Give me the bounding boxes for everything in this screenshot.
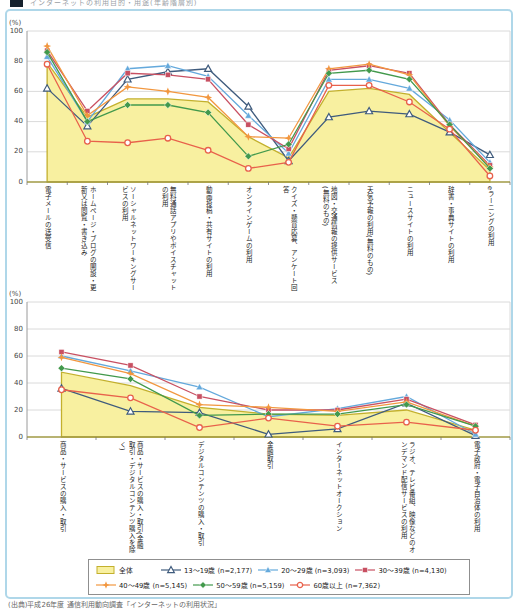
legend-label: 20〜29歳 (n=3,093) bbox=[281, 565, 349, 575]
y-tick-label: 60 bbox=[3, 87, 23, 95]
x-category-label: クイズ・懸賞応募、アンケート回答 bbox=[281, 186, 297, 292]
data-marker-circle-open bbox=[286, 160, 292, 166]
legend-label: 40〜49歳 (n=5,145) bbox=[119, 580, 187, 590]
data-marker-circle-open bbox=[59, 387, 65, 393]
x-category-label: 商品・サービスの購入・取引 bbox=[57, 441, 65, 554]
data-marker-circle-open bbox=[473, 427, 479, 433]
data-marker-square bbox=[206, 77, 211, 82]
data-marker-circle-open bbox=[298, 582, 303, 587]
y-tick-label: 80 bbox=[3, 57, 23, 65]
x-category-label: 地図・交通情報の提供サービス(無料のもの) bbox=[321, 186, 337, 292]
x-category-label: 電子メールの送受信 bbox=[43, 186, 51, 292]
data-marker-diamond bbox=[200, 581, 207, 588]
x-category-label: インターネットオークション bbox=[333, 441, 341, 554]
x-category-label: 天気予報の利用(無料のもの) bbox=[365, 186, 373, 292]
series-area-overall bbox=[47, 63, 490, 182]
data-marker-star bbox=[124, 83, 132, 91]
legend-item: 50〜59歳 (n=5,159) bbox=[193, 580, 284, 590]
y-tick-label: 20 bbox=[3, 147, 23, 155]
x-category-label: ニュースサイトの利用 bbox=[405, 186, 413, 292]
legend-label: 30〜39歳 (n=4,130) bbox=[378, 565, 446, 575]
data-marker-triangle-open bbox=[168, 566, 175, 572]
legend-item: 30〜39歳 (n=4,130) bbox=[355, 565, 446, 575]
data-marker-circle-open bbox=[197, 425, 203, 431]
legend: 全体13〜19歳 (n=2,177)20〜29歳 (n=3,093)30〜39歳… bbox=[88, 559, 470, 595]
legend-marker-circle-open bbox=[290, 580, 310, 590]
legend-item: 全体 bbox=[96, 565, 133, 575]
data-marker-circle-open bbox=[487, 173, 493, 179]
legend-marker-diamond-filled bbox=[193, 580, 213, 590]
data-marker-circle-open bbox=[335, 423, 341, 429]
x-category-label: eラーニングの利用 bbox=[486, 186, 494, 292]
legend-item: 13〜19歳 (n=2,177) bbox=[161, 565, 252, 575]
x-category-label: ラジオ、テレビ番組、映像などのオンデマンド配信サービスの利用 bbox=[398, 441, 414, 554]
data-marker-circle-open bbox=[125, 140, 131, 146]
y-tick-label: 0 bbox=[3, 178, 23, 186]
data-marker-star bbox=[102, 581, 110, 589]
x-category-label: オンラインゲームの利用 bbox=[244, 186, 252, 292]
y-tick-label: 40 bbox=[3, 117, 23, 125]
x-category-label: 辞書・事典サイトの利用 bbox=[446, 186, 454, 292]
legend-row-2: 40〜49歳 (n=5,145)50〜59歳 (n=5,159)60歳以上 (n… bbox=[96, 577, 464, 592]
data-marker-circle-open bbox=[246, 166, 252, 172]
data-marker-diamond bbox=[58, 365, 65, 372]
data-marker-circle-open bbox=[44, 61, 50, 67]
data-marker-square bbox=[125, 71, 130, 76]
legend-marker-triangle-filled bbox=[258, 565, 278, 575]
data-marker-circle-open bbox=[205, 147, 211, 153]
legend-marker-star4 bbox=[96, 580, 116, 590]
data-marker-circle-open bbox=[326, 83, 332, 89]
data-marker-square bbox=[246, 122, 251, 127]
legend-label: 全体 bbox=[119, 565, 133, 575]
data-marker-circle-open bbox=[404, 419, 410, 425]
data-marker-diamond bbox=[127, 375, 134, 382]
legend-row-1: 全体13〜19歳 (n=2,177)20〜29歳 (n=3,093)30〜39歳… bbox=[96, 562, 464, 577]
data-marker-square bbox=[363, 567, 368, 572]
legend-label: 50〜59歳 (n=5,159) bbox=[216, 580, 284, 590]
legend-label: 60歳以上 (n=7,362) bbox=[313, 580, 380, 590]
legend-item: 40〜49歳 (n=5,145) bbox=[96, 580, 187, 590]
x-category-label: ソーシャルネットワーキングサービスの利用 bbox=[120, 186, 136, 292]
y-tick-label: 20 bbox=[3, 406, 23, 414]
legend-label: 13〜19歳 (n=2,177) bbox=[184, 565, 252, 575]
data-marker-square bbox=[197, 394, 202, 399]
data-marker-circle-open bbox=[447, 126, 453, 132]
data-marker-square bbox=[165, 72, 170, 77]
legend-marker-triangle-open bbox=[161, 565, 181, 575]
y-tick-label: 0 bbox=[3, 433, 23, 441]
x-category-label: 金融取引 bbox=[264, 441, 272, 554]
y-tick-label: 100 bbox=[3, 298, 23, 306]
y-tick-label: 80 bbox=[3, 325, 23, 333]
data-marker-circle-open bbox=[266, 415, 272, 421]
y-tick-label: 60 bbox=[3, 352, 23, 360]
data-marker-circle-open bbox=[128, 395, 134, 401]
source-caption: (出典)平成26年度 通信利用動向調査「インターネットの利用状況」 bbox=[8, 599, 221, 609]
legend-marker-area bbox=[96, 565, 116, 575]
x-category-label: 電子政府・電子自治体の利用 bbox=[471, 441, 479, 554]
x-category-label: ホームページ・ブログの開設・更新又は閲覧・書き込み bbox=[79, 186, 95, 292]
y-tick-label: 100 bbox=[3, 27, 23, 35]
legend-item: 60歳以上 (n=7,362) bbox=[290, 580, 380, 590]
data-marker-square bbox=[128, 363, 133, 368]
x-category-label: 無料通話アプリやボイスチャットの利用 bbox=[160, 186, 176, 292]
legend-item: 20〜29歳 (n=3,093) bbox=[258, 565, 349, 575]
data-marker-circle-open bbox=[407, 99, 413, 105]
data-marker-circle-open bbox=[85, 138, 91, 144]
y-tick-label: 40 bbox=[3, 379, 23, 387]
x-category-label: デジタルコンテンツの購入・取引 bbox=[195, 441, 203, 554]
x-category-label: 商品・サービスの購入・取引(金融取引・デジタルコンテンツ購入を除く) bbox=[118, 441, 142, 554]
data-marker-star bbox=[164, 87, 172, 95]
data-marker-circle-open bbox=[165, 135, 171, 141]
data-marker-circle-open bbox=[366, 83, 372, 89]
legend-marker-square-filled bbox=[355, 565, 375, 575]
x-category-label: 動画投稿・共有サイトの利用 bbox=[204, 186, 212, 292]
